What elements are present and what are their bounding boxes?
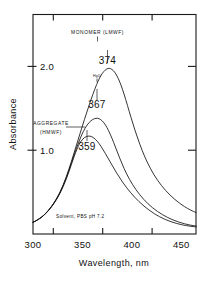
aggregate-series-label-line2: (HMWF) (40, 130, 62, 135)
solvent-note: Solvent, PBS pH 7.2 (56, 214, 105, 219)
spectral-absorbance-figure: 2.0 1.0 300 350 400 450 Wavelength, nm A… (0, 0, 212, 288)
monomer-peak-label: 374 (99, 55, 117, 66)
hgd-series-label: HgD (93, 74, 101, 78)
x-tick-label-350: 350 (74, 239, 91, 250)
aggregate-peak-label: 359 (78, 141, 96, 152)
x-tick-label-450: 450 (173, 239, 190, 250)
y-tick-label-1: 1.0 (40, 145, 54, 156)
y-axis-title: Absorbance (8, 98, 18, 150)
x-tick-label-400: 400 (124, 239, 141, 250)
x-tick-label-300: 300 (25, 239, 42, 250)
x-axis-title: Wavelength, nm (79, 258, 149, 268)
aggregate-series-label-line1: AGGREGATE (33, 121, 69, 126)
y-tick-label-2: 2.0 (40, 61, 54, 72)
monomer-series-label: MONOMER (LMWF) (71, 30, 124, 35)
hgd-peak-label: 367 (88, 99, 106, 110)
